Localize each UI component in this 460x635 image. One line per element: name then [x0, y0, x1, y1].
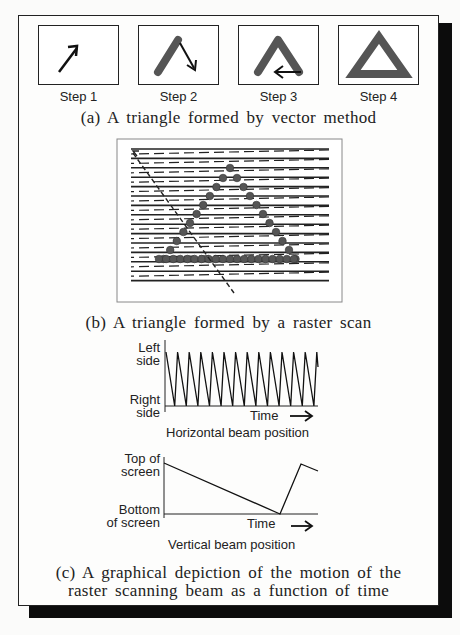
caption-c-line-1: (c) A graphical depiction of the motion …	[18, 564, 439, 582]
caption-c: (c) A graphical depiction of the motion …	[18, 564, 439, 600]
caption-c-line-2: raster scanning beam as a function of ti…	[18, 582, 439, 600]
vertical-chart-title: Vertical beam position	[168, 537, 295, 552]
vertical-x-label: Time	[247, 516, 275, 531]
